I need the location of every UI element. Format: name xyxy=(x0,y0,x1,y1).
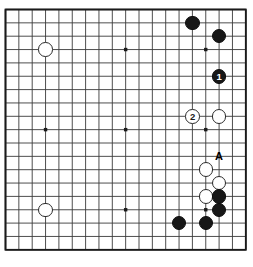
stone-white[interactable] xyxy=(212,109,227,124)
stone-white[interactable] xyxy=(199,189,214,204)
go-stone-layer: 12A xyxy=(0,0,253,267)
stone-black[interactable] xyxy=(172,216,187,231)
stone-black[interactable] xyxy=(185,16,200,31)
board-marker-a: A xyxy=(213,151,225,162)
stone-white-move-2[interactable]: 2 xyxy=(185,109,200,124)
stone-black-move-1[interactable]: 1 xyxy=(212,69,227,84)
stone-move-number: 2 xyxy=(190,112,195,122)
stone-white[interactable] xyxy=(212,176,227,191)
go-board-diagram: 12A xyxy=(0,0,253,267)
stone-move-number: 1 xyxy=(217,72,222,82)
stone-black[interactable] xyxy=(212,29,227,44)
stone-white[interactable] xyxy=(38,42,53,57)
stone-black[interactable] xyxy=(199,216,214,231)
stone-white[interactable] xyxy=(199,162,214,177)
stone-black[interactable] xyxy=(212,203,227,218)
stone-black[interactable] xyxy=(212,189,227,204)
stone-white[interactable] xyxy=(38,203,53,218)
